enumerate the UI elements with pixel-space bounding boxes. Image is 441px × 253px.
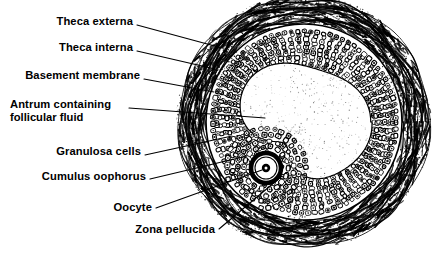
leader-theca-externa [137, 25, 222, 48]
follicle-diagram [0, 0, 441, 253]
label-theca-externa: Theca externa [56, 14, 133, 28]
label-antrum: Antrum containing [10, 97, 111, 111]
figure-canvas: Theca externa Theca interna Basement mem… [0, 0, 441, 253]
oocyte-nucleolus [265, 167, 268, 170]
label-oocyte: Oocyte [113, 200, 152, 214]
label-antrum-line2: follicular fluid [10, 111, 83, 123]
label-theca-interna: Theca interna [59, 40, 133, 54]
label-basement-membrane: Basement membrane [25, 68, 140, 82]
label-cumulus-oophorus: Cumulus oophorus [42, 169, 146, 183]
label-zona-pellucida: Zona pellucida [135, 222, 215, 236]
oocyte-group [251, 153, 281, 183]
label-granulosa-cells: Granulosa cells [56, 144, 141, 158]
